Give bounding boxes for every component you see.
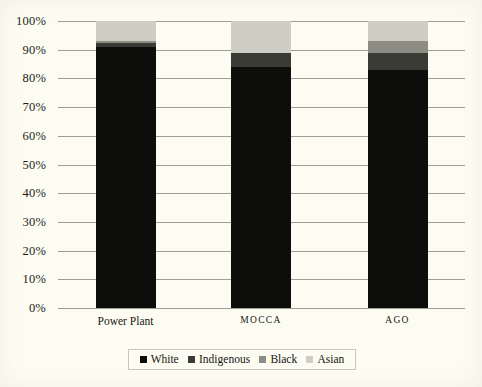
x-axis-category-label: MOCCA [240, 315, 281, 325]
bar-segment[interactable] [368, 70, 428, 308]
chart-container: 100%90%80%70%60%50%40%30%20%10%0% Power … [0, 0, 482, 387]
bar-segment[interactable] [96, 21, 156, 41]
legend-swatch-icon [140, 356, 147, 363]
y-axis: 100%90%80%70%60%50%40%30%20%10%0% [0, 0, 52, 387]
legend-item-label: Black [270, 354, 297, 366]
y-axis-tick-label: 40% [22, 186, 46, 201]
y-axis-tick-label: 0% [29, 301, 46, 316]
x-axis-category-label: Power Plant [98, 315, 154, 327]
x-axis-labels: Power PlantMOCCAAGO [58, 311, 465, 333]
bar-stack[interactable] [231, 21, 291, 308]
y-axis-tick-label: 100% [16, 14, 46, 29]
legend-item[interactable]: White [140, 354, 179, 366]
bar-segment[interactable] [231, 21, 291, 53]
chart-legend: WhiteIndigenousBlackAsian [128, 349, 356, 370]
bar-segment[interactable] [96, 47, 156, 308]
legend-item-label: Asian [317, 354, 344, 366]
bar-series [58, 21, 465, 308]
bar-segment[interactable] [231, 67, 291, 308]
legend-item[interactable]: Asian [306, 354, 344, 366]
legend-swatch-icon [306, 356, 313, 363]
legend-swatch-icon [188, 356, 195, 363]
y-axis-tick-label: 20% [22, 243, 46, 258]
legend-item-label: Indigenous [199, 354, 250, 366]
bar-segment[interactable] [368, 53, 428, 70]
bar-stack[interactable] [96, 21, 156, 308]
y-axis-tick-label: 30% [22, 214, 46, 229]
y-axis-tick-label: 50% [22, 157, 46, 172]
legend-swatch-icon [259, 356, 266, 363]
legend-item[interactable]: Black [259, 354, 297, 366]
bar-stack[interactable] [368, 21, 428, 308]
y-axis-tick-label: 90% [22, 42, 46, 57]
plot-area [58, 21, 465, 308]
y-axis-tick-label: 60% [22, 128, 46, 143]
gridline [58, 308, 465, 309]
legend-item[interactable]: Indigenous [188, 354, 250, 366]
legend-item-label: White [151, 354, 179, 366]
y-axis-tick-label: 80% [22, 71, 46, 86]
y-axis-tick-label: 10% [22, 272, 46, 287]
x-axis-category-label: AGO [385, 315, 409, 325]
y-axis-tick-label: 70% [22, 100, 46, 115]
bar-segment[interactable] [368, 41, 428, 52]
bar-segment[interactable] [368, 21, 428, 41]
bar-segment[interactable] [231, 53, 291, 67]
